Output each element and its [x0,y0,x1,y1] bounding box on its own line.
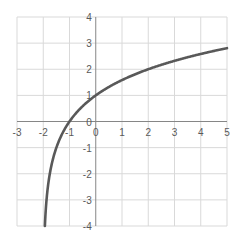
x-tick-label: 3 [172,127,178,138]
y-tick-label: -4 [83,221,92,232]
x-tick-label: 2 [145,127,151,138]
y-tick-label: 3 [86,38,92,49]
y-tick-label: 0 [86,117,92,128]
x-tick-label: 4 [198,127,204,138]
x-tick-label: -3 [13,127,22,138]
y-tick-label: -2 [83,169,92,180]
x-tick-label: 1 [119,127,125,138]
x-tick-labels: -3-2-1012345 [13,127,231,138]
y-tick-label: 2 [86,64,92,75]
y-tick-label: -3 [83,195,92,206]
x-tick-label: 5 [224,127,230,138]
x-tick-label: -2 [39,127,48,138]
x-tick-label: 0 [93,127,99,138]
function-plot: -3-2-1012345 -4-3-2-101234 [0,0,239,239]
y-tick-label: -1 [83,143,92,154]
y-tick-label: 4 [86,12,92,23]
